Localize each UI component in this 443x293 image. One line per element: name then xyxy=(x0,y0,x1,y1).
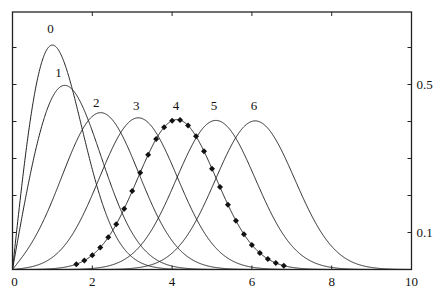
x-tick-label: 10 xyxy=(405,274,418,289)
curve-4 xyxy=(13,120,412,270)
curve-label-3: 3 xyxy=(133,98,140,113)
curve-5 xyxy=(13,120,412,269)
marker-point xyxy=(265,256,271,262)
curve-0 xyxy=(13,45,412,269)
curve-2 xyxy=(13,113,412,270)
marker-point xyxy=(81,258,87,264)
curve-4-markers xyxy=(73,117,286,269)
curve-6 xyxy=(13,121,412,270)
x-tick-label: 8 xyxy=(328,274,335,289)
curve-label-0: 0 xyxy=(47,21,54,36)
curve-3 xyxy=(13,118,412,270)
x-tick-label: 6 xyxy=(249,274,256,289)
curve-label-2: 2 xyxy=(93,95,100,110)
axis-labels: 02468100.10.5 xyxy=(11,77,433,289)
marker-point xyxy=(209,166,215,172)
marker-point xyxy=(121,206,127,212)
axis-ticks xyxy=(13,12,412,270)
marker-point xyxy=(281,263,287,269)
marker-point xyxy=(129,188,135,194)
marker-point xyxy=(169,118,175,124)
plot-border xyxy=(13,12,412,270)
curve-label-4: 4 xyxy=(173,98,180,113)
x-tick-label: 0 xyxy=(11,274,18,289)
plot-frame xyxy=(13,12,412,270)
x-tick-label: 4 xyxy=(169,274,176,289)
marker-point xyxy=(73,261,79,267)
marker-point xyxy=(113,221,119,227)
marker-point xyxy=(201,148,207,154)
x-tick-label: 2 xyxy=(89,274,96,289)
curve-label-6: 6 xyxy=(251,98,258,113)
y-tick-label-right: 0.1 xyxy=(417,225,433,240)
curve-label-5: 5 xyxy=(211,98,218,113)
marker-point xyxy=(145,152,151,158)
marker-point xyxy=(177,117,183,123)
marker-point xyxy=(217,184,223,190)
y-tick-label-right: 0.5 xyxy=(417,77,433,92)
marker-point xyxy=(233,218,239,224)
marker-point xyxy=(241,231,247,237)
curves xyxy=(13,45,412,269)
marker-point xyxy=(273,260,279,266)
marker-point xyxy=(105,234,111,240)
marker-point xyxy=(225,202,231,208)
curve-label-1: 1 xyxy=(55,65,62,80)
rice-distribution-chart: 0123456 02468100.10.5 xyxy=(0,0,443,293)
